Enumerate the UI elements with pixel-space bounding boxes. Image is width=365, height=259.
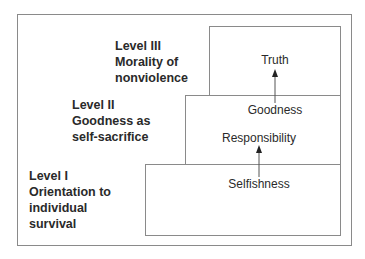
level-3-line: nonviolence [115, 70, 188, 86]
level-1-line: individual [29, 200, 111, 216]
level-3-line: Morality of [115, 54, 188, 70]
level-2-heading: Level II [72, 97, 151, 113]
level-2-line: self-sacrifice [72, 129, 151, 145]
level-2-label: Level II Goodness as self-sacrifice [72, 97, 151, 145]
arrowhead-up-icon [272, 69, 278, 77]
value-selfishness: Selfishness [227, 177, 290, 191]
level-2-line: Goodness as [72, 113, 151, 129]
level-1-line: survival [29, 216, 111, 232]
value-responsibility: Responsibility [221, 131, 297, 145]
level-3-heading: Level III [115, 38, 188, 54]
level-3-label: Level III Morality of nonviolence [115, 38, 188, 86]
level-1-label: Level I Orientation to individual surviv… [29, 168, 111, 232]
level-1-line: Orientation to [29, 184, 111, 200]
value-truth: Truth [260, 53, 290, 67]
level-1-heading: Level I [29, 168, 111, 184]
value-goodness: Goodness [247, 103, 304, 117]
arrowhead-up-icon [256, 145, 262, 153]
